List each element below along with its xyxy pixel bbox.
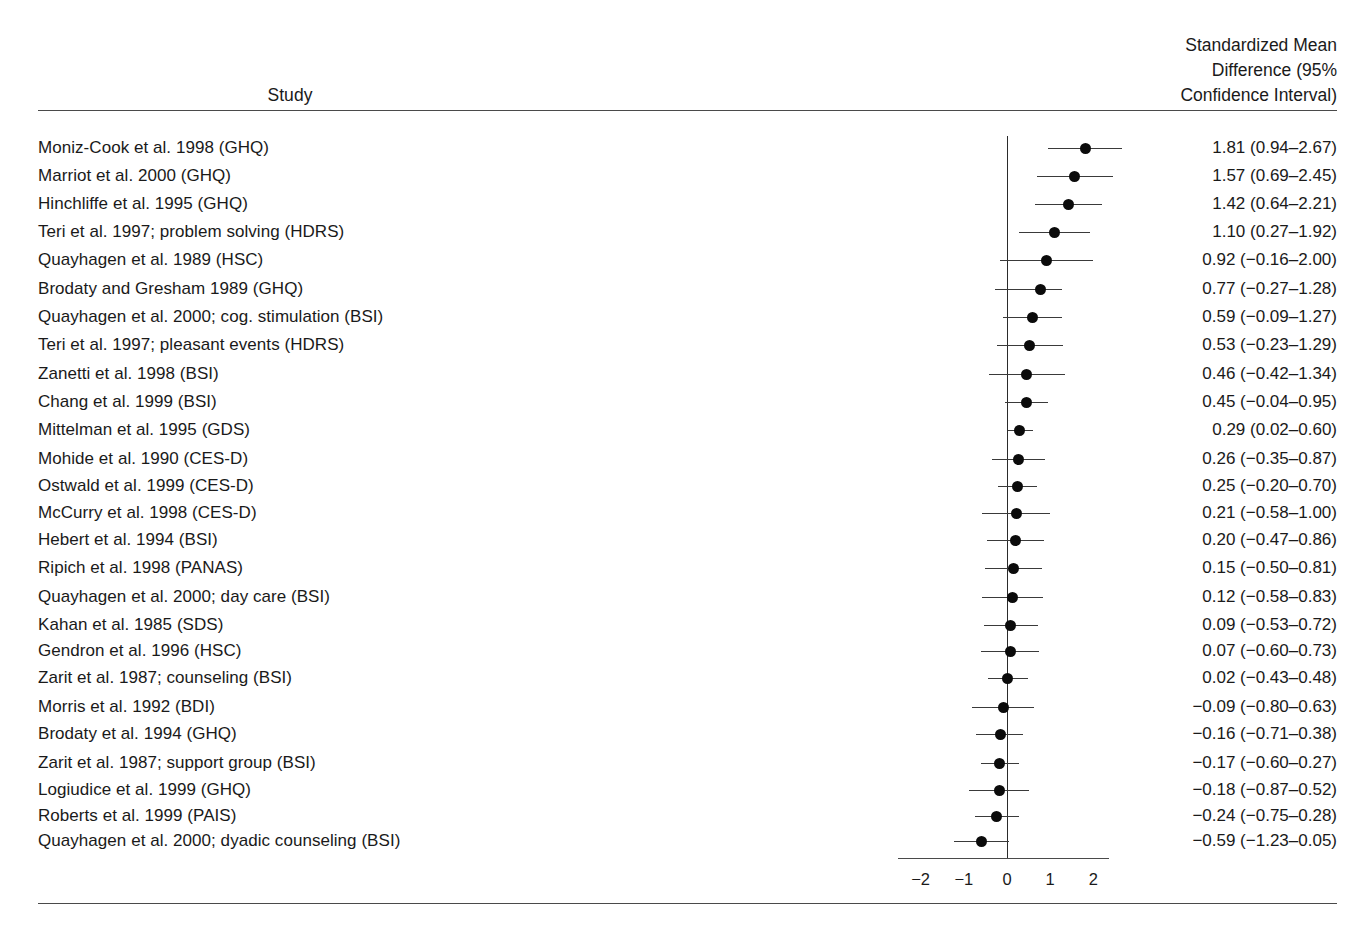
effect-size-value: 0.02 (−0.43–0.48) <box>1202 667 1337 689</box>
effect-size-value: 0.46 (−0.42–1.34) <box>1202 363 1337 385</box>
table-row: Ripich et al. 1998 (PANAS)0.15 (−0.50–0.… <box>0 557 1371 579</box>
study-label: Morris et al. 1992 (BDI) <box>38 696 215 718</box>
table-row: Mohide et al. 1990 (CES-D)0.26 (−0.35–0.… <box>0 448 1371 470</box>
effect-size-value: 0.53 (−0.23–1.29) <box>1202 334 1337 356</box>
effect-size-value: 1.57 (0.69–2.45) <box>1212 165 1337 187</box>
table-row: Ostwald et al. 1999 (CES-D)0.25 (−0.20–0… <box>0 475 1371 497</box>
table-row: Gendron et al. 1996 (HSC)0.07 (−0.60–0.7… <box>0 640 1371 662</box>
table-row: Kahan et al. 1985 (SDS)0.09 (−0.53–0.72) <box>0 614 1371 636</box>
study-label: McCurry et al. 1998 (CES-D) <box>38 502 257 524</box>
effect-size-value: 0.92 (−0.16–2.00) <box>1202 249 1337 271</box>
effect-size-value: 1.42 (0.64–2.21) <box>1212 193 1337 215</box>
table-row: Quayhagen et al. 2000; dyadic counseling… <box>0 830 1371 852</box>
table-row: Zanetti et al. 1998 (BSI)0.46 (−0.42–1.3… <box>0 363 1371 385</box>
effect-size-value: −0.09 (−0.80–0.63) <box>1192 696 1337 718</box>
effect-size-value: 0.26 (−0.35–0.87) <box>1202 448 1337 470</box>
study-label: Teri et al. 1997; problem solving (HDRS) <box>38 221 344 243</box>
table-row: Mittelman et al. 1995 (GDS)0.29 (0.02–0.… <box>0 419 1371 441</box>
study-label: Brodaty and Gresham 1989 (GHQ) <box>38 278 303 300</box>
study-label: Quayhagen et al. 1989 (HSC) <box>38 249 263 271</box>
effect-size-value: 0.59 (−0.09–1.27) <box>1202 306 1337 328</box>
forest-plot: Study Standardized Mean Difference (95% … <box>0 0 1371 927</box>
effect-size-value: −0.59 (−1.23–0.05) <box>1192 830 1337 852</box>
table-row: Quayhagen et al. 2000; day care (BSI)0.1… <box>0 586 1371 608</box>
table-row: Hinchliffe et al. 1995 (GHQ)1.42 (0.64–2… <box>0 193 1371 215</box>
study-label: Gendron et al. 1996 (HSC) <box>38 640 241 662</box>
table-row: Quayhagen et al. 2000; cog. stimulation … <box>0 306 1371 328</box>
table-row: Logiudice et al. 1999 (GHQ)−0.18 (−0.87–… <box>0 779 1371 801</box>
effect-size-value: 0.09 (−0.53–0.72) <box>1202 614 1337 636</box>
study-label: Zanetti et al. 1998 (BSI) <box>38 363 219 385</box>
table-row: Teri et al. 1997; pleasant events (HDRS)… <box>0 334 1371 356</box>
table-row: Brodaty and Gresham 1989 (GHQ)0.77 (−0.2… <box>0 278 1371 300</box>
table-row: Marriot et al. 2000 (GHQ)1.57 (0.69–2.45… <box>0 165 1371 187</box>
table-row: McCurry et al. 1998 (CES-D)0.21 (−0.58–1… <box>0 502 1371 524</box>
study-label: Quayhagen et al. 2000; dyadic counseling… <box>38 830 400 852</box>
table-row: Brodaty et al. 1994 (GHQ)−0.16 (−0.71–0.… <box>0 723 1371 745</box>
table-row: Zarit et al. 1987; counseling (BSI)0.02 … <box>0 667 1371 689</box>
study-label: Mittelman et al. 1995 (GDS) <box>38 419 250 441</box>
effect-size-value: 0.07 (−0.60–0.73) <box>1202 640 1337 662</box>
study-label: Zarit et al. 1987; counseling (BSI) <box>38 667 292 689</box>
effect-size-value: −0.17 (−0.60–0.27) <box>1192 752 1337 774</box>
effect-size-value: 1.10 (0.27–1.92) <box>1212 221 1337 243</box>
study-label: Hebert et al. 1994 (BSI) <box>38 529 218 551</box>
study-label: Kahan et al. 1985 (SDS) <box>38 614 223 636</box>
study-label: Marriot et al. 2000 (GHQ) <box>38 165 231 187</box>
effect-size-value: 0.20 (−0.47–0.86) <box>1202 529 1337 551</box>
table-row: Teri et al. 1997; problem solving (HDRS)… <box>0 221 1371 243</box>
study-label: Moniz-Cook et al. 1998 (GHQ) <box>38 137 269 159</box>
study-label: Brodaty et al. 1994 (GHQ) <box>38 723 237 745</box>
effect-size-value: 0.77 (−0.27–1.28) <box>1202 278 1337 300</box>
study-label: Quayhagen et al. 2000; day care (BSI) <box>38 586 330 608</box>
table-row: Hebert et al. 1994 (BSI)0.20 (−0.47–0.86… <box>0 529 1371 551</box>
effect-size-value: −0.24 (−0.75–0.28) <box>1192 805 1337 827</box>
table-row: Chang et al. 1999 (BSI)0.45 (−0.04–0.95) <box>0 391 1371 413</box>
effect-size-value: 0.21 (−0.58–1.00) <box>1202 502 1337 524</box>
study-label: Logiudice et al. 1999 (GHQ) <box>38 779 251 801</box>
study-label: Mohide et al. 1990 (CES-D) <box>38 448 248 470</box>
study-label: Hinchliffe et al. 1995 (GHQ) <box>38 193 248 215</box>
effect-size-value: 0.29 (0.02–0.60) <box>1212 419 1337 441</box>
study-label: Quayhagen et al. 2000; cog. stimulation … <box>38 306 383 328</box>
effect-size-value: 0.25 (−0.20–0.70) <box>1202 475 1337 497</box>
effect-size-value: 0.12 (−0.58–0.83) <box>1202 586 1337 608</box>
effect-size-value: 0.15 (−0.50–0.81) <box>1202 557 1337 579</box>
study-label: Teri et al. 1997; pleasant events (HDRS) <box>38 334 344 356</box>
table-row: Morris et al. 1992 (BDI)−0.09 (−0.80–0.6… <box>0 696 1371 718</box>
effect-size-value: −0.16 (−0.71–0.38) <box>1192 723 1337 745</box>
effect-size-value: 0.45 (−0.04–0.95) <box>1202 391 1337 413</box>
table-row: Zarit et al. 1987; support group (BSI)−0… <box>0 752 1371 774</box>
study-rows: Moniz-Cook et al. 1998 (GHQ)1.81 (0.94–2… <box>0 0 1371 927</box>
table-row: Quayhagen et al. 1989 (HSC)0.92 (−0.16–2… <box>0 249 1371 271</box>
study-label: Ostwald et al. 1999 (CES-D) <box>38 475 254 497</box>
table-row: Moniz-Cook et al. 1998 (GHQ)1.81 (0.94–2… <box>0 137 1371 159</box>
study-label: Zarit et al. 1987; support group (BSI) <box>38 752 316 774</box>
study-label: Roberts et al. 1999 (PAIS) <box>38 805 236 827</box>
study-label: Ripich et al. 1998 (PANAS) <box>38 557 243 579</box>
effect-size-value: 1.81 (0.94–2.67) <box>1212 137 1337 159</box>
effect-size-value: −0.18 (−0.87–0.52) <box>1192 779 1337 801</box>
table-row: Roberts et al. 1999 (PAIS)−0.24 (−0.75–0… <box>0 805 1371 827</box>
study-label: Chang et al. 1999 (BSI) <box>38 391 217 413</box>
